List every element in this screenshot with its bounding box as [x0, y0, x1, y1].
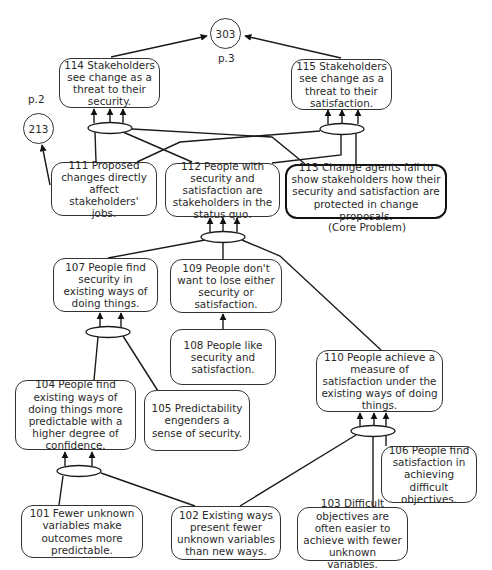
node-105: 105 Predictability engenders a sense of …	[144, 390, 250, 451]
node-115: 115 Stakeholders see change as a threat …	[291, 59, 392, 110]
node-102: 102 Existing ways present fewer unknown …	[171, 506, 281, 560]
node-108: 108 People like security and satisfactio…	[170, 329, 276, 385]
and-junction-114	[88, 123, 132, 134]
node-107: 107 People find security in existing way…	[53, 258, 158, 312]
node-110: 110 People achieve a measure of satisfac…	[316, 350, 443, 412]
node-109: 109 People don't want to lose either sec…	[170, 259, 282, 313]
and-junction-104	[57, 466, 101, 477]
connector-213: 213	[23, 113, 54, 144]
node-114: 114 Stakeholders see change as a threat …	[59, 58, 160, 108]
and-junction-107	[86, 327, 130, 338]
and-junction-115	[320, 124, 364, 135]
node-113-core-problem: 113 Change agents fail to show stakehold…	[285, 164, 447, 219]
connector-213-page: p.2	[28, 93, 45, 105]
node-104: 104 People find existing ways of doing t…	[15, 380, 136, 450]
node-111: 111 Proposed changes directly affect sta…	[51, 162, 157, 216]
connector-303: 303	[210, 18, 241, 49]
core-problem-note: (Core Problem)	[328, 221, 406, 233]
node-106: 106 People find satisfaction in achievin…	[381, 446, 477, 503]
node-103: 103 Difficult objectives are often easie…	[297, 507, 408, 561]
node-112: 112 People with security and satisfactio…	[165, 163, 280, 217]
and-junction-110	[351, 426, 395, 437]
and-junction-112	[201, 232, 245, 243]
node-101: 101 Fewer unknown variables make outcome…	[21, 505, 143, 558]
connector-303-page: p.3	[218, 52, 235, 64]
